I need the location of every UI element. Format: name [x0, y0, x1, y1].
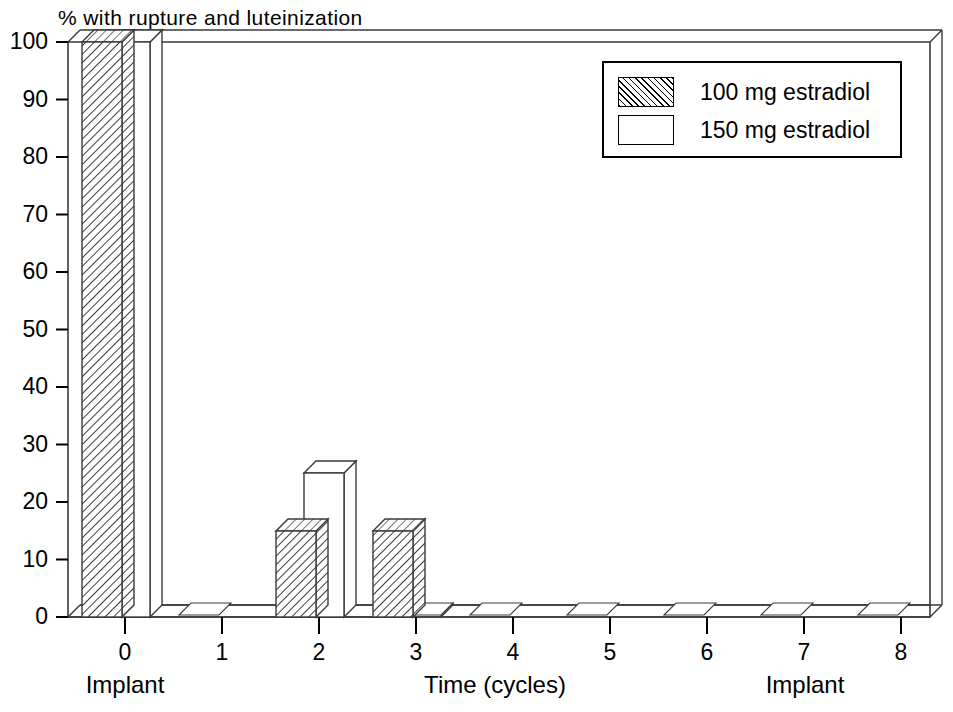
ytick-label-10: 10 — [0, 548, 48, 571]
xtick-label-2: 2 — [299, 641, 339, 664]
bar-100mg-cycle0 — [82, 30, 134, 617]
legend-label-100mg: 100 mg estradiol — [700, 81, 870, 104]
xtick-label-1: 1 — [202, 641, 242, 664]
xtick-label-7: 7 — [784, 641, 824, 664]
legend-swatch-plain-icon — [618, 115, 674, 145]
x-axis-label: Time (cycles) — [405, 673, 585, 697]
y-axis-ticks — [56, 42, 68, 617]
bar-100mg-cycle3 — [373, 519, 425, 617]
ytick-label-90: 90 — [0, 88, 48, 111]
ytick-label-30: 30 — [0, 433, 48, 456]
x-caption-implant-left: Implant — [45, 673, 205, 697]
xtick-label-5: 5 — [590, 641, 630, 664]
legend-entry-100mg: 100 mg estradiol — [618, 75, 870, 109]
chart-legend: 100 mg estradiol 150 mg estradiol — [602, 61, 902, 158]
ytick-label-80: 80 — [0, 145, 48, 168]
x-caption-implant-right: Implant — [725, 673, 885, 697]
ytick-label-0: 0 — [0, 605, 48, 628]
xtick-label-8: 8 — [881, 641, 921, 664]
ytick-label-100: 100 — [0, 30, 48, 53]
ytick-label-50: 50 — [0, 318, 48, 341]
xtick-label-0: 0 — [105, 641, 145, 664]
chart-figure: % with rupture and luteinization — [0, 0, 953, 712]
xtick-label-6: 6 — [687, 641, 727, 664]
xtick-label-4: 4 — [493, 641, 533, 664]
bar-100mg-cycle2 — [276, 519, 328, 617]
legend-swatch-hatched-icon — [618, 77, 674, 107]
legend-label-150mg: 150 mg estradiol — [700, 119, 870, 142]
ytick-label-70: 70 — [0, 203, 48, 226]
x-axis-ticks — [125, 617, 901, 634]
ytick-label-60: 60 — [0, 260, 48, 283]
xtick-label-3: 3 — [396, 641, 436, 664]
ytick-label-40: 40 — [0, 375, 48, 398]
ytick-label-20: 20 — [0, 490, 48, 513]
legend-entry-150mg: 150 mg estradiol — [618, 113, 870, 147]
